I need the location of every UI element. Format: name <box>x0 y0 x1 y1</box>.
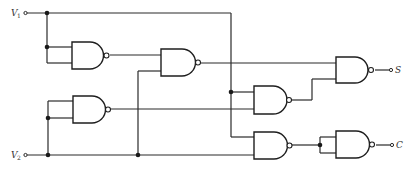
nand-gate-sum <box>336 57 374 83</box>
logic-circuit-diagram: V 1 V 2 S C <box>0 0 413 172</box>
nand-gate-1 <box>72 42 109 69</box>
nand-gate-2 <box>161 49 201 76</box>
input-terminal-v2 <box>24 153 27 156</box>
nand-gate-carry <box>336 131 375 158</box>
input-terminal-v1 <box>24 11 27 14</box>
output-label-c: C <box>396 140 403 150</box>
output-terminal-s <box>389 68 392 71</box>
input-label-v1-subscript: 1 <box>17 12 21 19</box>
nand-gate-4 <box>254 132 292 159</box>
input-label-v2-subscript: 2 <box>17 154 21 161</box>
output-label-s: S <box>395 65 401 75</box>
output-terminal-c <box>390 143 393 146</box>
nand-gate-3 <box>254 86 292 114</box>
nand-gate-6 <box>73 96 111 123</box>
